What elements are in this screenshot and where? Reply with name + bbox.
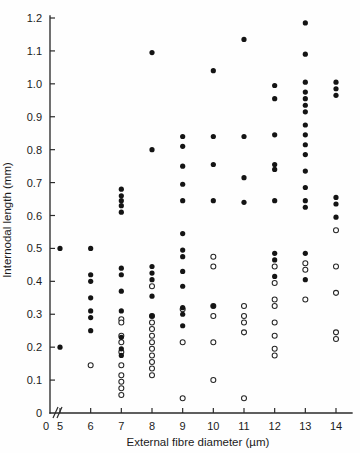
- x-tick-label: 8: [149, 420, 155, 432]
- data-point-filled: [333, 93, 338, 98]
- x-axis-origin-label: 0: [43, 420, 49, 432]
- data-point-filled: [333, 86, 338, 91]
- y-tick-label: 0.6: [27, 210, 42, 222]
- data-point-open: [211, 340, 216, 345]
- data-point-filled: [180, 305, 185, 310]
- data-point-filled: [241, 37, 246, 42]
- data-point-open: [334, 290, 339, 295]
- y-tick-label: 1.0: [27, 78, 42, 90]
- data-point-open: [150, 366, 155, 371]
- data-point-filled: [303, 277, 308, 282]
- y-tick-label: 0.7: [27, 177, 42, 189]
- open-circle-data-points: [88, 228, 338, 401]
- data-point-open: [150, 333, 155, 338]
- data-point-open: [334, 264, 339, 269]
- data-point-filled: [333, 195, 338, 200]
- plot-canvas: 00.10.20.30.40.50.60.70.80.91.01.11.2 05…: [0, 0, 360, 453]
- data-point-open: [211, 264, 216, 269]
- data-point-open: [150, 346, 155, 351]
- data-point-open: [242, 320, 247, 325]
- data-point-filled: [303, 80, 308, 85]
- data-point-filled: [119, 187, 124, 192]
- data-point-open: [150, 284, 155, 289]
- x-tick-label: 10: [207, 420, 219, 432]
- data-point-filled: [149, 50, 154, 55]
- data-point-open: [180, 340, 185, 345]
- y-tick-label: 0: [36, 407, 42, 419]
- data-point-filled: [180, 164, 185, 169]
- data-point-filled: [88, 272, 93, 277]
- data-point-open: [150, 320, 155, 325]
- data-point-filled: [57, 345, 62, 350]
- data-point-open: [303, 261, 308, 266]
- data-point-filled: [149, 277, 154, 282]
- data-point-filled: [119, 289, 124, 294]
- data-point-open: [272, 353, 277, 358]
- data-point-filled: [119, 266, 124, 271]
- data-point-filled: [88, 295, 93, 300]
- data-point-filled: [241, 134, 246, 139]
- data-point-open: [303, 297, 308, 302]
- data-point-filled: [272, 83, 277, 88]
- data-point-filled: [211, 134, 216, 139]
- data-point-open: [242, 330, 247, 335]
- data-point-filled: [180, 312, 185, 317]
- axes-group: [50, 16, 352, 418]
- data-point-filled: [149, 313, 154, 318]
- data-point-filled: [303, 185, 308, 190]
- data-point-filled: [88, 328, 93, 333]
- data-point-filled: [180, 198, 185, 203]
- data-point-filled: [272, 274, 277, 279]
- data-point-filled: [57, 246, 62, 251]
- data-point-filled: [149, 271, 154, 276]
- data-point-filled: [211, 303, 216, 308]
- data-point-filled: [119, 203, 124, 208]
- x-tick-label: 9: [180, 420, 186, 432]
- data-point-filled: [272, 132, 277, 137]
- data-point-filled: [303, 122, 308, 127]
- data-point-filled: [119, 198, 124, 203]
- data-point-filled: [180, 323, 185, 328]
- data-point-filled: [241, 175, 246, 180]
- data-point-filled: [303, 132, 308, 137]
- data-point-filled: [272, 251, 277, 256]
- data-point-open: [150, 359, 155, 364]
- data-point-open: [334, 336, 339, 341]
- y-tick-label: 0.8: [27, 144, 42, 156]
- data-point-open: [180, 396, 185, 401]
- data-point-filled: [180, 254, 185, 259]
- data-point-filled: [180, 182, 185, 187]
- y-tick-label: 0.5: [27, 242, 42, 254]
- data-point-filled: [149, 147, 154, 152]
- data-point-filled: [272, 162, 277, 167]
- y-tick-label: 0.3: [27, 308, 42, 320]
- data-point-open: [242, 396, 247, 401]
- data-point-filled: [303, 96, 308, 101]
- data-point-filled: [303, 251, 308, 256]
- x-tick-label: 6: [88, 420, 94, 432]
- data-point-open: [303, 267, 308, 272]
- data-point-open: [119, 386, 124, 391]
- data-point-filled: [180, 284, 185, 289]
- data-point-filled: [88, 246, 93, 251]
- x-tick-label: 5: [57, 420, 63, 432]
- data-point-filled: [119, 353, 124, 358]
- data-point-filled: [180, 247, 185, 252]
- data-point-filled: [272, 167, 277, 172]
- data-point-filled: [303, 198, 308, 203]
- data-point-open: [150, 373, 155, 378]
- data-point-open: [334, 330, 339, 335]
- x-axis-ticks: 0567891011121314: [43, 408, 342, 432]
- data-point-filled: [211, 198, 216, 203]
- data-point-filled: [180, 231, 185, 236]
- data-point-filled: [119, 308, 124, 313]
- y-tick-label: 0.2: [27, 341, 42, 353]
- data-point-open: [272, 264, 277, 269]
- x-tick-label: 13: [299, 420, 311, 432]
- data-point-filled: [303, 152, 308, 157]
- data-point-filled: [303, 89, 308, 94]
- data-point-open: [334, 228, 339, 233]
- data-point-filled: [149, 294, 154, 299]
- data-point-filled: [180, 134, 185, 139]
- x-tick-label: 12: [269, 420, 281, 432]
